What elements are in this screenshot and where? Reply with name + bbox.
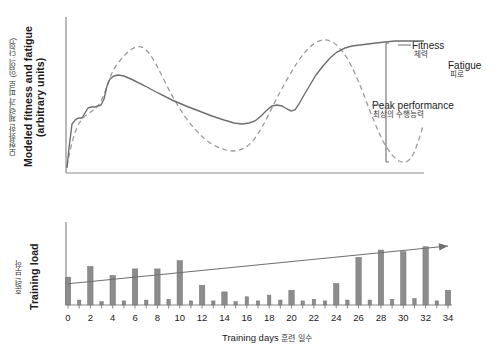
x-axis-tick-label: 14 bbox=[219, 312, 230, 323]
training-load-bar bbox=[122, 301, 125, 305]
training-load-bar bbox=[256, 301, 259, 305]
fatigue-curve bbox=[67, 40, 423, 166]
training-load-bar bbox=[222, 292, 227, 305]
training-load-bar bbox=[65, 277, 70, 305]
training-load-bar bbox=[423, 247, 428, 305]
training-load-bar bbox=[356, 257, 361, 305]
x-axis-tick-label: 22 bbox=[309, 312, 320, 323]
training-load-bar bbox=[145, 300, 148, 305]
x-axis-tick-label: 28 bbox=[376, 312, 387, 323]
training-load-bar bbox=[301, 301, 304, 305]
training-load-bar bbox=[167, 299, 170, 305]
top-panel-axes bbox=[66, 17, 424, 173]
x-axis-tick-label: 10 bbox=[174, 312, 185, 323]
training-load-bar bbox=[289, 290, 294, 305]
training-load-bar bbox=[368, 300, 371, 305]
x-axis-tick-label: 30 bbox=[398, 312, 409, 323]
training-load-bar bbox=[177, 261, 182, 305]
x-axis-tick-label: 0 bbox=[65, 312, 70, 323]
training-load-bar bbox=[390, 299, 393, 305]
training-load-bar bbox=[445, 290, 450, 305]
x-axis-tick-label: 32 bbox=[420, 312, 431, 323]
training-load-bar bbox=[100, 302, 103, 305]
x-axis-tick-label: 12 bbox=[197, 312, 208, 323]
plot-svg: 0246810121416182022242628303234 bbox=[0, 0, 500, 355]
training-load-bar bbox=[234, 302, 237, 305]
x-axis-tick-label: 18 bbox=[264, 312, 275, 323]
x-axis-tick-label: 8 bbox=[155, 312, 160, 323]
x-axis-tick-label: 24 bbox=[331, 312, 342, 323]
x-axis-tick-label: 2 bbox=[88, 312, 93, 323]
training-load-bar bbox=[88, 266, 93, 305]
training-load-bar bbox=[189, 301, 192, 305]
training-load-bar bbox=[212, 301, 215, 305]
training-load-bar bbox=[199, 285, 204, 305]
training-load-bar bbox=[378, 250, 383, 305]
x-axis-tick-label: 34 bbox=[443, 312, 454, 323]
x-axis-tick-label: 20 bbox=[286, 312, 297, 323]
bottom-panel-axes bbox=[66, 222, 452, 305]
training-load-bar bbox=[401, 252, 406, 305]
training-load-bar bbox=[334, 284, 339, 305]
training-load-bar bbox=[77, 300, 80, 305]
x-axis-tick-label: 6 bbox=[132, 312, 137, 323]
training-load-bar bbox=[267, 295, 270, 305]
x-axis-tick-label: 16 bbox=[242, 312, 253, 323]
training-load-bar bbox=[435, 301, 438, 305]
training-load-bar bbox=[346, 300, 349, 305]
training-load-bar bbox=[413, 298, 416, 305]
training-load-trend-arrow bbox=[68, 243, 448, 283]
training-load-bar bbox=[323, 301, 326, 305]
training-load-bar bbox=[312, 299, 315, 305]
training-load-bar bbox=[279, 300, 282, 305]
top-panel-curves bbox=[67, 40, 424, 168]
training-load-bars bbox=[65, 247, 450, 305]
peak-performance-marker bbox=[386, 43, 389, 162]
training-load-bar bbox=[245, 297, 248, 305]
x-axis-tick-labels: 0246810121416182022242628303234 bbox=[65, 312, 453, 323]
figure-root: 모형화한 체력과 피로 (임의 단위) Modeled fitness and … bbox=[0, 0, 500, 355]
training-load-bar bbox=[132, 269, 137, 305]
x-axis-tick-label: 4 bbox=[110, 312, 115, 323]
x-axis-tick-label: 26 bbox=[353, 312, 364, 323]
